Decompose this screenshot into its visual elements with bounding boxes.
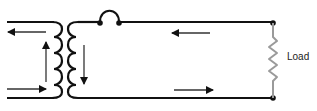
load-resistor — [269, 23, 277, 98]
load-label: Load — [287, 51, 309, 62]
primary-winding — [52, 22, 62, 98]
switch-jumper — [100, 11, 119, 22]
circuit-diagram — [0, 0, 317, 111]
secondary-winding — [68, 22, 78, 98]
secondary-circuit — [68, 11, 277, 101]
current-arrows — [7, 32, 213, 90]
switch-terminal-left — [97, 20, 103, 26]
primary-circuit — [7, 22, 62, 98]
